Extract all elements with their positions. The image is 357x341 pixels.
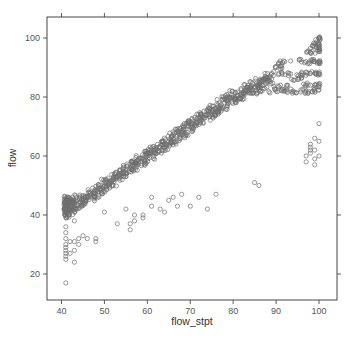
data-point [68,240,72,244]
x-tick-label: 50 [99,306,109,316]
data-point [267,90,271,94]
data-point [150,195,154,199]
data-point [94,237,98,241]
data-point [214,192,218,196]
x-axis-ticks: 405060708090100 [56,13,326,316]
data-point [72,219,76,223]
x-tick-label: 100 [311,306,326,316]
x-tick-label: 40 [56,306,66,316]
data-point [304,154,308,158]
data-point [158,207,162,211]
data-point [64,281,68,285]
data-point [115,222,119,226]
data-point [304,160,308,164]
data-point [197,195,201,199]
data-point [64,231,68,235]
data-point [150,204,154,208]
y-tick-label: 80 [30,92,40,102]
data-points [62,35,322,285]
x-tick-label: 90 [271,306,281,316]
data-point [175,204,179,208]
data-point [102,210,106,214]
data-point [289,59,293,63]
data-point [205,207,209,211]
data-point [64,237,68,241]
data-point [77,242,81,246]
data-point [132,219,136,223]
data-point [64,225,68,229]
data-point [141,213,145,217]
data-point [81,234,85,238]
data-point [72,240,76,244]
data-point [317,139,321,143]
x-tick-label: 80 [228,306,238,316]
data-point [72,248,76,252]
data-point [72,260,76,264]
y-tick-label: 40 [30,210,40,220]
data-point [171,195,175,199]
data-point [132,213,136,217]
data-point [128,228,132,232]
data-point [188,204,192,208]
data-point [85,237,89,241]
plot-frame [47,17,337,300]
x-axis-title: flow_stpt [171,315,213,327]
y-tick-label: 60 [30,151,40,161]
data-point [313,163,317,167]
data-point [128,222,132,226]
data-point [253,181,257,185]
data-point [124,207,128,211]
data-point [77,237,81,241]
x-tick-label: 60 [142,306,152,316]
data-point [180,192,184,196]
data-point [68,251,72,255]
data-point [162,210,166,214]
y-tick-label: 20 [30,269,40,279]
data-point [317,154,321,158]
data-point [257,183,261,187]
y-tick-label: 100 [25,33,40,43]
y-axis-title: flow [6,148,18,167]
data-point [313,157,317,161]
scatter-chart: 405060708090100 20406080100 flow_stpt fl… [0,0,357,341]
data-point [268,91,272,95]
data-point [308,142,312,146]
data-point [64,242,68,246]
data-point [313,148,317,152]
data-point [313,136,317,140]
data-point [167,198,171,202]
data-point [317,122,321,126]
